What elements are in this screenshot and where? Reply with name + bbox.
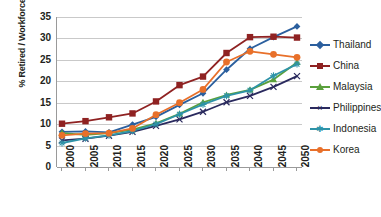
x-tick-label-2025: 2025 bbox=[183, 145, 194, 175]
legend-label: Korea bbox=[333, 144, 360, 155]
x-tick-label-2035: 2035 bbox=[230, 145, 241, 175]
x-tick-2015 bbox=[132, 167, 133, 171]
x-tick-2005 bbox=[85, 167, 86, 171]
y-tick-label-20: 20 bbox=[29, 75, 51, 86]
y-tick-label-0: 0 bbox=[29, 161, 51, 172]
x-tick-2035 bbox=[226, 167, 227, 171]
x-tick-2025 bbox=[179, 167, 180, 171]
y-tick-label-10: 10 bbox=[29, 118, 51, 129]
x-tick-label-2000: 2000 bbox=[65, 145, 76, 175]
x-tick-2020 bbox=[155, 167, 156, 171]
x-tick-label-2030: 2030 bbox=[206, 145, 217, 175]
legend-label: Indonesia bbox=[333, 123, 376, 134]
x-tick-label-2045: 2045 bbox=[277, 145, 288, 175]
legend-marker-x-icon: × bbox=[310, 102, 330, 114]
series-korea bbox=[59, 48, 301, 139]
y-tick-label-30: 30 bbox=[29, 32, 51, 43]
y-tick-label-35: 35 bbox=[29, 11, 51, 22]
legend-item-thailand[interactable]: Thailand bbox=[310, 34, 376, 55]
legend-label: Malaysia bbox=[333, 81, 372, 92]
chart-legend: ThailandChinaMalaysia×Philippines✱Indone… bbox=[310, 34, 376, 160]
legend-marker-diamond-icon bbox=[310, 39, 330, 51]
legend-item-malaysia[interactable]: Malaysia bbox=[310, 76, 376, 97]
x-tick-label-2010: 2010 bbox=[112, 145, 123, 175]
legend-marker-asterisk-icon: ✱ bbox=[310, 123, 330, 135]
legend-item-indonesia[interactable]: ✱Indonesia bbox=[310, 118, 376, 139]
legend-label: Thailand bbox=[333, 39, 371, 50]
x-tick-label-2005: 2005 bbox=[89, 145, 100, 175]
series-malaysia bbox=[58, 59, 300, 138]
x-tick-label-2040: 2040 bbox=[253, 145, 264, 175]
legend-marker-circle-icon bbox=[310, 144, 330, 156]
x-tick-2040 bbox=[249, 167, 250, 171]
legend-item-korea[interactable]: Korea bbox=[310, 139, 376, 160]
x-tick-2050 bbox=[296, 167, 297, 171]
legend-label: Philippines bbox=[333, 102, 381, 113]
x-tick-label-2020: 2020 bbox=[159, 145, 170, 175]
y-tick-label-25: 25 bbox=[29, 54, 51, 65]
legend-item-philippines[interactable]: ×Philippines bbox=[310, 97, 376, 118]
legend-label: China bbox=[333, 60, 359, 71]
legend-item-china[interactable]: China bbox=[310, 55, 376, 76]
legend-marker-square-icon bbox=[310, 60, 330, 72]
x-tick-2045 bbox=[273, 167, 274, 171]
x-tick-2030 bbox=[202, 167, 203, 171]
y-tick-label-15: 15 bbox=[29, 97, 51, 108]
x-tick-2010 bbox=[108, 167, 109, 171]
x-tick-2000 bbox=[61, 167, 62, 171]
x-tick-label-2015: 2015 bbox=[136, 145, 147, 175]
y-tick-label-5: 5 bbox=[29, 140, 51, 151]
legend-marker-triangle-icon bbox=[310, 81, 330, 93]
